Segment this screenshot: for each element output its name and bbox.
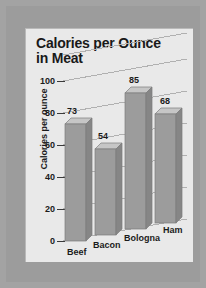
bar-ham-side xyxy=(176,108,182,223)
gridline-120 xyxy=(63,33,187,55)
x-category-label-ham: Ham xyxy=(163,225,183,235)
bar-ham xyxy=(155,108,182,223)
image-frame: Calories per Ounce in Meat Calories per … xyxy=(0,0,206,288)
value-label-ham: 68 xyxy=(160,96,170,106)
bar-bologna-front xyxy=(125,93,146,229)
value-label-beef: 73 xyxy=(67,106,77,116)
x-category-label-beef: Beef xyxy=(67,247,87,257)
bar-bacon-front xyxy=(95,149,116,235)
x-category-label-bacon: Bacon xyxy=(93,240,121,250)
bar-beef-side xyxy=(86,118,92,241)
bar-bologna xyxy=(125,87,152,229)
bar-bologna-side xyxy=(146,87,152,229)
bar-bacon-side xyxy=(116,143,122,235)
bar-beef xyxy=(65,118,92,241)
y-axis-ticks xyxy=(57,81,65,241)
chart-mat-border: Calories per Ounce in Meat Calories per … xyxy=(6,6,200,282)
bar-bacon xyxy=(95,143,122,235)
bar-ham-front xyxy=(155,114,176,223)
chart-panel: Calories per Ounce in Meat Calories per … xyxy=(25,28,193,262)
x-category-label-bologna: Bologna xyxy=(124,233,160,243)
bar-beef-front xyxy=(65,124,86,241)
value-label-bologna: 85 xyxy=(129,75,139,85)
value-label-bacon: 54 xyxy=(98,131,108,141)
gridline-100 xyxy=(63,59,187,81)
